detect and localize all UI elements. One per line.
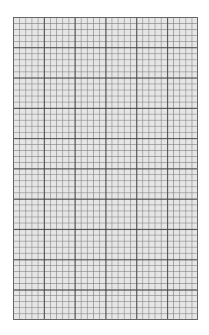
page (0, 0, 209, 335)
graph-paper-grid (13, 17, 198, 320)
